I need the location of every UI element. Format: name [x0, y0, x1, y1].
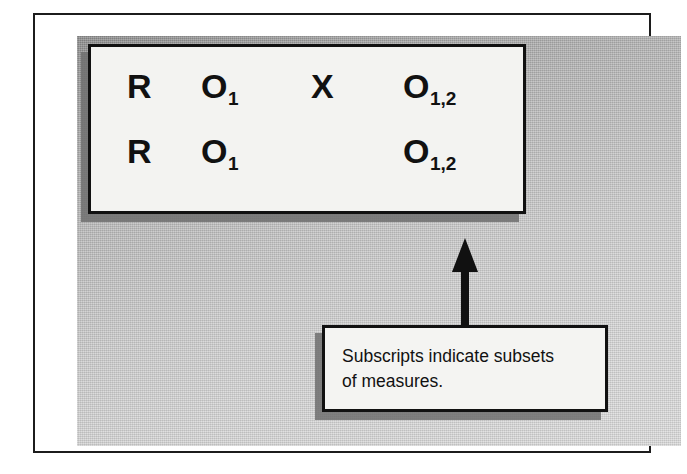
notation-subscript: 1,2 — [430, 153, 456, 174]
notation-row: R O1 O1,2 — [91, 132, 523, 171]
notation-subscript: 1 — [228, 88, 239, 109]
up-arrow-icon — [448, 236, 482, 332]
notation-symbol: O — [403, 132, 430, 170]
notation-symbol: X — [311, 67, 334, 105]
notation-cell-r: R — [91, 132, 201, 171]
caption-line-1: Subscripts indicate subsets — [342, 344, 594, 369]
notation-cell-o12: O1,2 — [403, 67, 523, 106]
notation-cell-r: R — [91, 67, 201, 106]
notation-cell-o1: O1 — [201, 67, 311, 106]
notation-symbol: O — [403, 67, 430, 105]
notation-row: R O1 X O1,2 — [91, 67, 523, 106]
notation-symbol: R — [127, 67, 152, 105]
caption-box: Subscripts indicate subsets of measures. — [322, 325, 608, 412]
notation-cell-o12: O1,2 — [403, 132, 523, 171]
notation-cell-o1: O1 — [201, 132, 311, 171]
notation-box: R O1 X O1,2 R O1 O1,2 — [88, 44, 526, 214]
figure-canvas: R O1 X O1,2 R O1 O1,2 — [0, 0, 687, 474]
notation-symbol: O — [201, 67, 228, 105]
notation-cell-x: X — [311, 67, 403, 106]
notation-symbol: O — [201, 132, 228, 170]
notation-subscript: 1 — [228, 153, 239, 174]
caption-line-2: of measures. — [342, 369, 594, 394]
notation-symbol: R — [127, 132, 152, 170]
caption-text: Subscripts indicate subsets of measures. — [342, 344, 594, 394]
notation-subscript: 1,2 — [430, 88, 456, 109]
